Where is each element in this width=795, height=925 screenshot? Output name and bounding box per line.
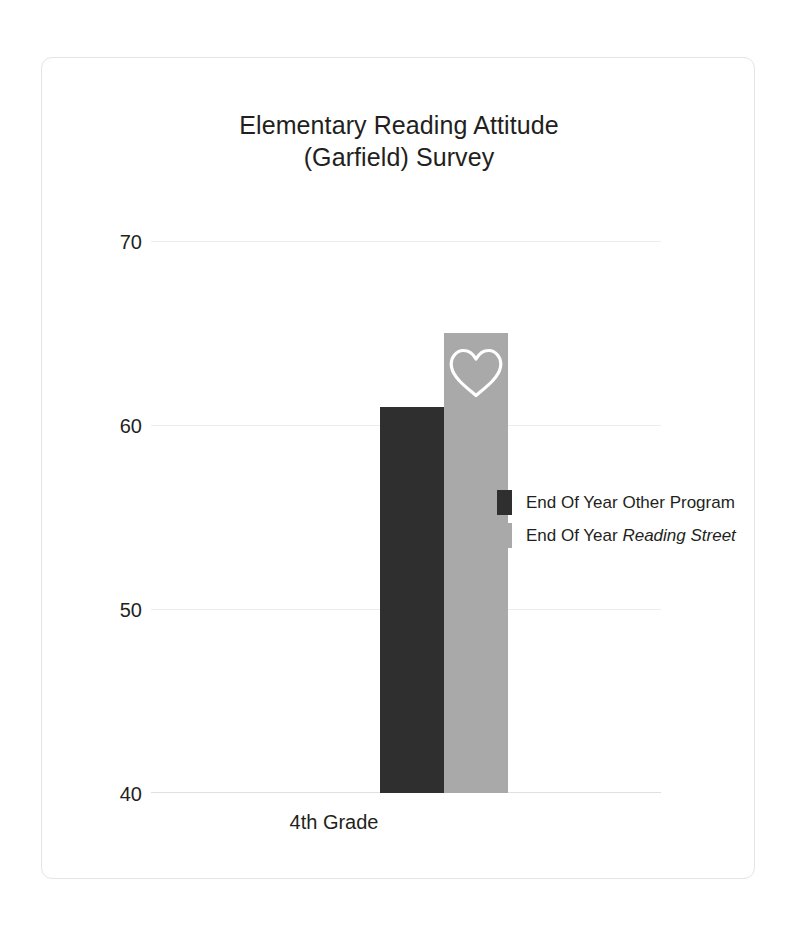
legend-item-other-program: End Of Year Other Program bbox=[497, 486, 736, 519]
legend-item-reading-street: End Of Year Reading Street bbox=[497, 519, 736, 552]
y-axis-label-60: 60 bbox=[72, 416, 142, 436]
legend-label-reading-street: End Of Year Reading Street bbox=[526, 526, 736, 546]
legend-label-reading-street-italic: Reading Street bbox=[622, 526, 735, 545]
y-axis-label-70: 70 bbox=[72, 232, 142, 252]
gridline-70 bbox=[151, 241, 661, 242]
chart-title: Elementary Reading Attitude (Garfield) S… bbox=[42, 109, 756, 173]
bar-end-of-year-reading-street bbox=[444, 333, 508, 793]
legend-label-other-program-text: End Of Year Other Program bbox=[526, 493, 735, 512]
legend-label-reading-street-prefix: End Of Year bbox=[526, 526, 622, 545]
chart-legend: End Of Year Other Program End Of Year Re… bbox=[497, 486, 736, 552]
bar-end-of-year-other-program bbox=[380, 407, 444, 793]
y-axis-label-50: 50 bbox=[72, 600, 142, 620]
chart-title-line-2: (Garfield) Survey bbox=[42, 141, 756, 173]
chart-title-line-1: Elementary Reading Attitude bbox=[42, 109, 756, 141]
heart-icon bbox=[448, 347, 504, 399]
page-root: Elementary Reading Attitude (Garfield) S… bbox=[0, 0, 795, 925]
x-axis-category-label: 4th Grade bbox=[42, 810, 756, 834]
x-axis-category-label-text: 4th Grade bbox=[290, 810, 379, 834]
legend-swatch-other-program bbox=[497, 490, 512, 515]
y-axis-label-40: 40 bbox=[72, 784, 142, 804]
legend-label-other-program: End Of Year Other Program bbox=[526, 493, 735, 513]
legend-swatch-reading-street bbox=[497, 523, 512, 548]
chart-card: Elementary Reading Attitude (Garfield) S… bbox=[41, 57, 755, 879]
